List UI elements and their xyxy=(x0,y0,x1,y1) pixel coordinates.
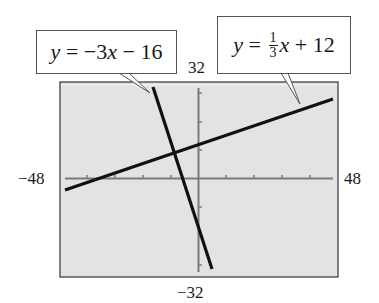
xmin-label: −48 xyxy=(18,170,45,187)
callout-equals: = xyxy=(243,32,266,58)
callout-constant: + 12 xyxy=(289,32,334,58)
graph-figure: y = −3 x − 16 y = 1 3 x + 12 32 −32 −48 … xyxy=(0,0,379,303)
fraction-denominator: 3 xyxy=(270,46,277,60)
callout-equals-coef: = −3 xyxy=(60,39,107,65)
ymax-label: 32 xyxy=(188,59,205,76)
ymin-label: −32 xyxy=(177,284,204,301)
left-equation-callout: y = −3 x − 16 xyxy=(36,30,177,74)
callout-var-y: y xyxy=(51,39,61,65)
callout-var-x: x xyxy=(280,32,290,58)
xmax-label: 48 xyxy=(344,170,361,187)
fraction-one-third: 1 3 xyxy=(269,31,278,60)
callout-var-y: y xyxy=(233,32,243,58)
right-equation-callout: y = 1 3 x + 12 xyxy=(217,16,351,74)
callout-var-x: x xyxy=(107,39,117,65)
fraction-numerator: 1 xyxy=(269,31,278,46)
callout-constant: − 16 xyxy=(117,39,162,65)
